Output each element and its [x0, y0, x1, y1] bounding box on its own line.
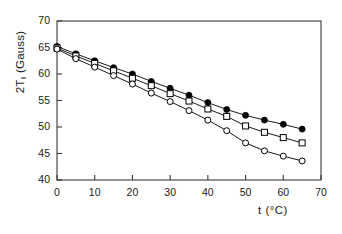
data-point: [92, 64, 98, 70]
x-tick-label: 40: [197, 186, 219, 198]
y-tick-label: 55: [24, 94, 50, 106]
y-tick-label: 65: [24, 41, 50, 53]
data-markers: [54, 43, 305, 163]
x-tick-label: 0: [46, 186, 68, 198]
data-point: [205, 106, 211, 112]
data-point: [243, 112, 249, 118]
plot-canvas: [0, 0, 342, 234]
data-point: [73, 56, 79, 62]
data-point: [280, 121, 286, 127]
data-point: [261, 148, 267, 154]
x-tick-label: 20: [121, 186, 143, 198]
x-tick-label: 60: [272, 186, 294, 198]
x-tick-label: 50: [235, 186, 257, 198]
x-axis-label-text: t (°C): [258, 204, 288, 216]
y-tick-label: 40: [24, 173, 50, 185]
data-point: [243, 140, 249, 146]
x-axis-label: t (°C): [258, 204, 288, 216]
data-point: [148, 83, 154, 89]
data-point: [167, 99, 173, 105]
x-tick-label: 70: [310, 186, 332, 198]
data-point: [261, 117, 267, 123]
data-point: [111, 73, 117, 79]
data-point: [186, 92, 192, 98]
data-point: [224, 113, 230, 119]
data-point: [129, 75, 135, 81]
y-axis-label-main: 2T: [14, 79, 26, 93]
data-point: [299, 126, 305, 132]
data-point: [205, 117, 211, 123]
y-tick-label: 60: [24, 67, 50, 79]
data-point: [167, 91, 173, 97]
data-point: [280, 135, 286, 141]
data-point: [224, 128, 230, 134]
y-tick-label: 70: [24, 14, 50, 26]
data-point: [299, 158, 305, 164]
data-point: [148, 90, 154, 96]
data-point: [299, 140, 305, 146]
y-tick-label: 45: [24, 147, 50, 159]
data-point: [205, 100, 211, 106]
data-point: [224, 107, 230, 113]
y-tick-label: 50: [24, 120, 50, 132]
data-point: [261, 129, 267, 135]
data-point: [280, 153, 286, 159]
x-tick-label: 30: [159, 186, 181, 198]
data-point: [54, 46, 60, 52]
data-point: [186, 108, 192, 114]
data-point: [129, 81, 135, 87]
data-point: [243, 123, 249, 129]
chart-figure: 2T‖ (Gauss) t (°C) 404550556065700102030…: [0, 0, 342, 234]
data-point: [186, 98, 192, 104]
x-tick-label: 10: [84, 186, 106, 198]
